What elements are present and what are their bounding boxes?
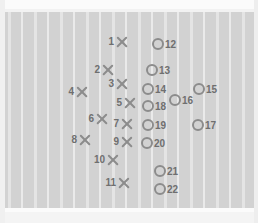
cross-icon bbox=[95, 112, 109, 126]
sideline-top-inner bbox=[0, 9, 258, 12]
yard-line bbox=[216, 0, 219, 223]
circle-icon bbox=[169, 94, 181, 106]
marker-label: 18 bbox=[155, 102, 166, 112]
yard-line bbox=[21, 0, 23, 223]
cross-icon bbox=[75, 85, 89, 99]
cross-icon bbox=[78, 133, 92, 147]
marker-label: 9 bbox=[113, 137, 119, 147]
yard-line bbox=[151, 0, 153, 223]
yard-line bbox=[229, 0, 231, 223]
field-edge-right bbox=[254, 0, 258, 223]
marker-label: 21 bbox=[167, 167, 178, 177]
yard-line bbox=[34, 0, 37, 223]
sideline-top bbox=[0, 0, 258, 9]
circle-icon bbox=[141, 137, 153, 149]
yard-line bbox=[112, 0, 115, 223]
marker-label: 14 bbox=[155, 85, 166, 95]
marker-label: 11 bbox=[105, 178, 116, 188]
marker-label: 7 bbox=[113, 119, 119, 129]
cross-icon bbox=[123, 96, 137, 110]
marker-label: 3 bbox=[108, 79, 114, 89]
yard-line bbox=[138, 0, 141, 223]
circle-icon bbox=[154, 183, 166, 195]
circle-icon bbox=[154, 165, 166, 177]
circle-icon bbox=[152, 38, 164, 50]
marker-label: 19 bbox=[155, 121, 166, 131]
cross-icon bbox=[106, 153, 120, 167]
yard-line bbox=[203, 0, 205, 223]
football-field: 12345678910111213141516171819202122 bbox=[0, 0, 258, 223]
cross-icon bbox=[117, 176, 131, 190]
field-edge-left bbox=[0, 0, 5, 223]
marker-label: 2 bbox=[94, 65, 100, 75]
marker-label: 5 bbox=[116, 98, 122, 108]
marker-label: 1 bbox=[108, 37, 114, 47]
marker-label: 17 bbox=[205, 121, 216, 131]
marker-label: 13 bbox=[159, 66, 170, 76]
circle-icon bbox=[142, 83, 154, 95]
marker-label: 8 bbox=[71, 135, 77, 145]
cross-icon bbox=[101, 63, 115, 77]
marker-label: 12 bbox=[165, 40, 176, 50]
circle-icon bbox=[193, 83, 205, 95]
marker-label: 4 bbox=[68, 87, 74, 97]
sideline-bottom-inner bbox=[0, 212, 258, 223]
yard-line bbox=[47, 0, 49, 223]
yard-line bbox=[73, 0, 75, 223]
yard-line bbox=[190, 0, 193, 223]
circle-icon bbox=[146, 64, 158, 76]
yard-line bbox=[242, 0, 245, 223]
cross-icon bbox=[115, 77, 129, 91]
marker-label: 16 bbox=[182, 96, 193, 106]
marker-label: 15 bbox=[206, 85, 217, 95]
yard-line bbox=[8, 0, 11, 223]
cross-icon bbox=[120, 117, 134, 131]
cross-icon bbox=[115, 35, 129, 49]
circle-icon bbox=[192, 119, 204, 131]
cross-icon bbox=[120, 135, 134, 149]
circle-icon bbox=[142, 119, 154, 131]
yard-line bbox=[60, 0, 63, 223]
marker-label: 6 bbox=[88, 114, 94, 124]
marker-label: 20 bbox=[154, 139, 165, 149]
field-diagram: 12345678910111213141516171819202122 bbox=[0, 0, 258, 223]
circle-icon bbox=[142, 100, 154, 112]
marker-label: 22 bbox=[167, 185, 178, 195]
marker-label: 10 bbox=[94, 155, 105, 165]
yard-line bbox=[86, 0, 89, 223]
